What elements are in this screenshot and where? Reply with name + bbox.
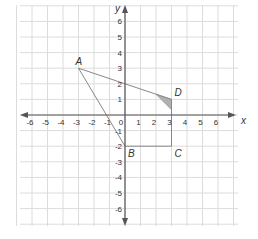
y-tick-label: 4 — [118, 49, 123, 58]
point-label-B: B — [128, 148, 135, 159]
point-label-C: C — [175, 148, 183, 159]
point-label-D: D — [175, 87, 182, 98]
x-tick-label: -2 — [88, 118, 96, 127]
x-tick-label: 6 — [214, 118, 219, 127]
x-axis-right-arrow-icon — [228, 112, 236, 118]
x-tick-label: -5 — [42, 118, 50, 127]
point-labels: ABCD — [75, 56, 183, 159]
x-tick-label: -3 — [73, 118, 81, 127]
y-tick-label: -1 — [115, 127, 123, 136]
y-tick-label: -2 — [115, 142, 123, 151]
y-tick-label: 5 — [118, 33, 123, 42]
x-tick-label: 2 — [152, 118, 157, 127]
y-tick-label: 3 — [118, 64, 123, 73]
point-label-A: A — [75, 56, 83, 67]
y-axis-label: y — [114, 3, 121, 14]
x-axis-label: x — [240, 115, 247, 126]
y-axis-down-arrow-icon — [122, 218, 128, 226]
y-tick-label: 1 — [118, 95, 123, 104]
y-tick-label: -5 — [115, 189, 123, 198]
y-tick-label: 2 — [118, 80, 123, 89]
x-tick-label: 5 — [198, 118, 203, 127]
x-tick-label: -1 — [104, 118, 112, 127]
y-tick-label: 6 — [118, 17, 123, 26]
y-tick-label: -6 — [115, 205, 123, 214]
y-tick-label: -4 — [115, 173, 123, 182]
x-tick-label: 3 — [167, 118, 172, 127]
x-tick-label: 4 — [183, 118, 188, 127]
x-tick-label: 1 — [136, 118, 141, 127]
x-tick-label: -4 — [57, 118, 65, 127]
x-tick-label: -6 — [26, 118, 34, 127]
y-tick-label: -3 — [115, 158, 123, 167]
coordinate-plane: -6-5-4-3-2-10123456654321-1-2-3-4-5-6 AB… — [0, 0, 258, 239]
